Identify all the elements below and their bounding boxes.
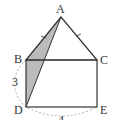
- label-a: A: [56, 2, 65, 16]
- label-c: C: [100, 53, 108, 67]
- label-d: D: [14, 103, 23, 117]
- geometry-figure: A B C D E 3 4: [0, 0, 114, 120]
- label-de-length: 4: [58, 113, 64, 120]
- label-e: E: [100, 103, 107, 117]
- label-bd-length: 3: [12, 75, 18, 89]
- label-b: B: [14, 52, 22, 66]
